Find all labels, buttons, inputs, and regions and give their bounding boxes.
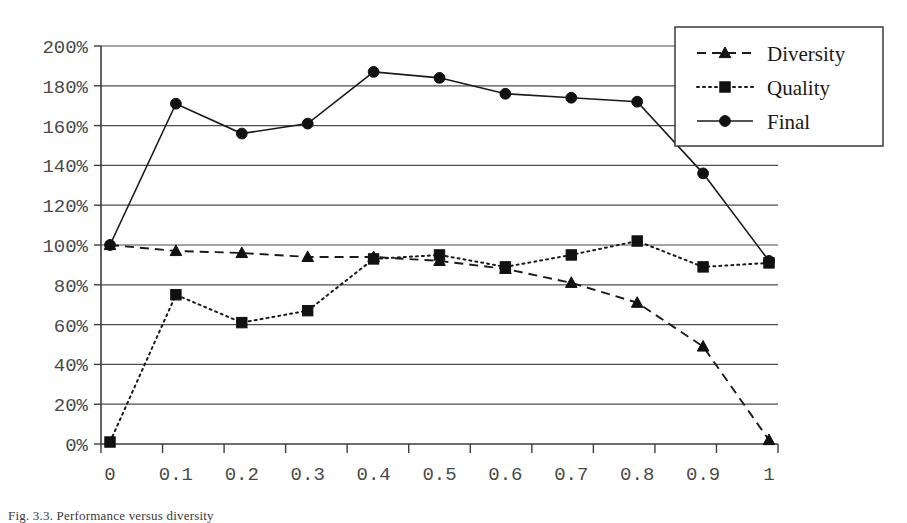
data-point-quality [632, 236, 642, 246]
y-axis-ticks [94, 46, 101, 444]
x-tick-label: 0.4 [356, 464, 390, 486]
x-tick-label: 0.6 [488, 464, 522, 486]
data-point-final [171, 98, 182, 109]
data-point-final [566, 92, 577, 103]
x-tick-label: 0.3 [291, 464, 325, 486]
data-point-final [302, 118, 313, 129]
y-tick-label: 80% [54, 276, 89, 298]
y-tick-label: 180% [42, 77, 88, 99]
series-line-final [110, 72, 769, 261]
series-quality [105, 236, 774, 447]
y-tick-label: 120% [42, 196, 88, 218]
data-point-final [434, 72, 445, 83]
series-line-quality [110, 241, 769, 442]
legend-label: Diversity [767, 42, 846, 66]
series-final [105, 66, 775, 266]
x-tick-label: 0.1 [159, 464, 193, 486]
y-tick-label: 40% [54, 355, 89, 377]
data-point-quality [698, 262, 708, 272]
figure-caption: Fig. 3.3. Performance versus diversity [8, 508, 214, 523]
figure-container: 0%20%40%60%80%100%120%140%160%180%200% 0… [0, 0, 907, 523]
series-diversity [104, 239, 775, 445]
x-axis-ticks [101, 444, 778, 453]
data-point-final [764, 256, 775, 267]
legend-label: Final [767, 110, 810, 134]
data-point-quality [303, 305, 313, 315]
y-tick-label: 160% [42, 117, 88, 139]
y-tick-label: 140% [42, 156, 88, 178]
data-point-quality [237, 317, 247, 327]
data-point-final [236, 128, 247, 139]
y-tick-label: 200% [42, 37, 88, 59]
data-point-diversity [566, 277, 578, 288]
chart-legend: DiversityQualityFinal [675, 27, 883, 146]
x-tick-label: 0.5 [422, 464, 456, 486]
x-tick-label: 0.9 [686, 464, 720, 486]
legend-marker-square [720, 82, 730, 92]
x-tick-label: 0.8 [620, 464, 654, 486]
data-point-final [632, 96, 643, 107]
x-tick-label: 0.2 [225, 464, 259, 486]
line-chart: 0%20%40%60%80%100%120%140%160%180%200% 0… [0, 0, 907, 523]
y-axis-tick-labels: 0%20%40%60%80%100%120%140%160%180%200% [42, 37, 88, 457]
data-point-quality [434, 250, 444, 260]
x-tick-label: 0.7 [554, 464, 588, 486]
y-tick-label: 60% [54, 316, 89, 338]
data-series-layer [104, 66, 775, 447]
legend-label: Quality [767, 76, 830, 100]
y-tick-label: 20% [54, 395, 89, 417]
data-point-final [698, 168, 709, 179]
data-point-diversity [697, 340, 709, 351]
data-point-quality [368, 254, 378, 264]
data-point-quality [171, 290, 181, 300]
data-point-quality [500, 262, 510, 272]
data-point-final [105, 240, 116, 251]
data-point-final [500, 88, 511, 99]
series-line-diversity [110, 245, 769, 440]
y-tick-label: 100% [42, 236, 88, 258]
legend-marker-circle [720, 116, 731, 127]
data-point-final [368, 66, 379, 77]
x-tick-label: 1 [763, 464, 774, 486]
y-tick-label: 0% [65, 435, 88, 457]
x-tick-label: 0 [104, 464, 115, 486]
x-axis-tick-labels: 00.10.20.30.40.50.60.70.80.91 [104, 464, 774, 486]
data-point-quality [566, 250, 576, 260]
data-point-quality [105, 437, 115, 447]
